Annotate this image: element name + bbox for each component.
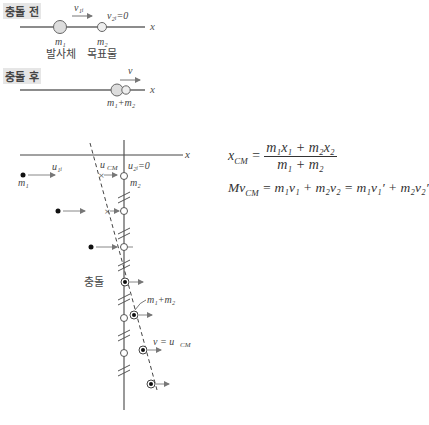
collision-label: 충돌 (84, 276, 104, 289)
final-velocity-sub: CM (180, 341, 192, 349)
x-axis-label: x (149, 20, 155, 32)
momentum-sub: CM (245, 188, 259, 198)
svg-text:×: × (104, 207, 111, 216)
cm-frame-diagram: x u₁ᵢ u CM u₂ᵢ=0 m₁ × m₂ × 충돌 (18, 140, 192, 410)
frame-x-axis-label: x (184, 148, 190, 160)
momentum-equation: MvCM = m₁v₁ + m₂v₂ = m₁v₁′ + m₂v₂′ (228, 180, 429, 198)
m1-label: m₁ (55, 36, 66, 47)
xcm-sub: CM (234, 156, 248, 166)
xcm-fraction: m₁x₁ + m₂x₂ m₁ + m₂ (264, 140, 337, 173)
m2-label: m₂ (97, 36, 108, 47)
xcm-equation: xCM = m₁x₁ + m₂x₂ m₁ + m₂ (228, 140, 337, 173)
combined-mass-label: m₁+m₂ (107, 97, 136, 108)
ucm-sub: CM (107, 164, 119, 172)
svg-text:×: × (98, 171, 105, 180)
final-velocity-label: v = u (153, 336, 174, 347)
frame-m2-label: m₂ (130, 177, 141, 188)
after-collision-tag: 충돌 후 (3, 68, 41, 84)
x-axis-label-after: x (149, 83, 155, 95)
momentum-rhs: = m₁v₁ + m₂v₂ = m₁v₁′ + m₂v₂′ (259, 180, 429, 195)
momentum-lhs: Mv (228, 180, 245, 195)
u2i-label: u₂ᵢ=0 (128, 160, 150, 171)
v2i-label: v₂ᵢ=0 (107, 10, 128, 21)
frame-combined-label: m₁+m₂ (147, 294, 176, 305)
ucm-label: u (100, 159, 105, 170)
xcm-numerator: m₁x₁ + m₂x₂ (264, 140, 337, 157)
v-label: v (128, 65, 133, 76)
before-collision-tag: 충돌 전 (3, 3, 41, 19)
xcm-denominator: m₁ + m₂ (264, 157, 337, 173)
target-label: 목표물 (87, 48, 117, 61)
projectile-label: 발사체 (46, 48, 76, 61)
v1i-label: v₁ᵢ (74, 2, 84, 13)
u1i-label: u₁ᵢ (52, 161, 62, 172)
frame-m1-label: m₁ (18, 177, 29, 188)
